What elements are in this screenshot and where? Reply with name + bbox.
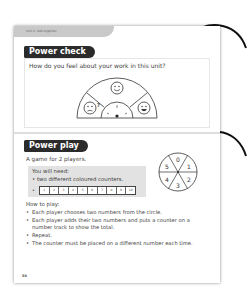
spinner-number: 2: [187, 176, 191, 183]
how-to-play-steps: Each player chooses two numbers from the…: [26, 209, 206, 248]
power-check-title: Power check: [24, 46, 95, 58]
unit-tab: Unit 2: Add together: [14, 26, 114, 37]
page-number: 86: [22, 274, 27, 278]
need-title: You will need:: [32, 168, 69, 174]
track-cell[interactable]: 10: [126, 187, 135, 194]
number-track: 1 2 3 4 5 6 7 8 9 10: [39, 186, 136, 195]
power-play-title: Power play: [24, 140, 88, 152]
track-cell[interactable]: 1: [40, 187, 50, 194]
spinner-number: 1: [187, 163, 191, 170]
step-item: Repeat.: [26, 232, 206, 239]
track-cell[interactable]: 9: [117, 187, 127, 194]
track-cell[interactable]: 3: [59, 187, 69, 194]
spinner-number: 5: [165, 163, 169, 170]
track-bullet: •: [32, 187, 35, 193]
power-check-box: How do you feel about your work in this …: [24, 58, 210, 128]
spinner-number: 4: [165, 176, 169, 183]
svg-text:?: ?: [97, 102, 100, 108]
step-item: Each player chooses two numbers from the…: [26, 209, 206, 216]
unit-label: Unit 2: Add together: [26, 29, 57, 33]
need-item: • two different coloured counters.: [32, 176, 123, 182]
power-check-question: How do you feel about your work in this …: [29, 62, 165, 69]
track-cell[interactable]: 8: [107, 187, 117, 194]
step-item: Each player adds their two numbers and p…: [26, 217, 206, 231]
track-cell[interactable]: 5: [78, 187, 88, 194]
spinner-number: 3: [176, 182, 180, 189]
step-item: The counter must be placed on a differen…: [26, 240, 206, 247]
power-play-intro: A game for 2 players.: [26, 156, 86, 162]
feelings-dial: ?: [75, 72, 159, 120]
track-cell[interactable]: 7: [98, 187, 108, 194]
track-cell[interactable]: 4: [69, 187, 79, 194]
section-divider: [14, 132, 220, 134]
spinner-number: 0: [176, 156, 180, 163]
how-to-play-title: How to play:: [26, 201, 59, 207]
track-cell[interactable]: 6: [88, 187, 98, 194]
number-spinner: 0 1 2 3 4 5: [157, 151, 199, 193]
track-cell[interactable]: 2: [50, 187, 60, 194]
you-will-need-box: You will need: • two different coloured …: [28, 166, 146, 197]
workbook-page: Unit 2: Add together Power check How do …: [14, 26, 220, 283]
